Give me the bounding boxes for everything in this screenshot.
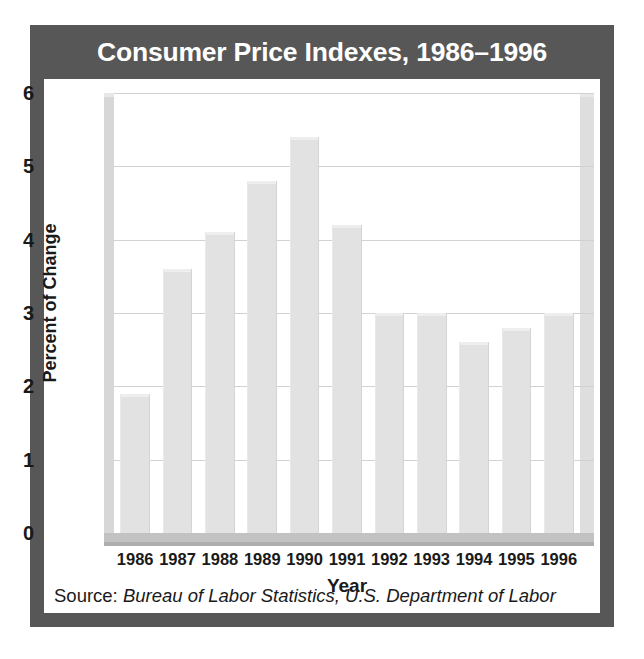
source-note: Source: Bureau of Labor Statistics, U.S.… bbox=[44, 585, 556, 607]
x-tick-label: 1991 bbox=[326, 550, 368, 569]
source-box: Source: Bureau of Labor Statistics, U.S.… bbox=[44, 578, 600, 613]
x-tick-label: 1994 bbox=[453, 550, 495, 569]
bar-top-face bbox=[503, 328, 531, 331]
bar bbox=[205, 232, 235, 533]
y-tick-label: 4 bbox=[4, 228, 34, 251]
y-tick-label: 0 bbox=[4, 522, 34, 545]
bar-top-face bbox=[376, 313, 404, 316]
plot-floor-front bbox=[104, 542, 594, 546]
bar bbox=[163, 269, 193, 533]
y-axis-label: Percent of Change bbox=[40, 83, 64, 523]
bar bbox=[459, 342, 489, 533]
x-tick-label: 1987 bbox=[156, 550, 198, 569]
bar-top-face bbox=[460, 342, 488, 345]
x-tick-label: 1988 bbox=[199, 550, 241, 569]
bar-top-face bbox=[206, 232, 234, 235]
bar bbox=[247, 181, 277, 533]
x-tick-label: 1992 bbox=[368, 550, 410, 569]
bar-top-face bbox=[545, 313, 573, 316]
x-tick-label: 1986 bbox=[114, 550, 156, 569]
bar bbox=[120, 394, 150, 533]
x-tick-label: 1995 bbox=[495, 550, 537, 569]
y-tick-label: 6 bbox=[4, 82, 34, 105]
bar bbox=[502, 328, 532, 533]
bar-series bbox=[114, 93, 580, 533]
plot-right-wall bbox=[580, 97, 594, 541]
bar-top-face bbox=[291, 137, 319, 140]
bar bbox=[332, 225, 362, 533]
bar-top-face bbox=[333, 225, 361, 228]
bar-top-face bbox=[248, 181, 276, 184]
chart-title: Consumer Price Indexes, 1986–1996 bbox=[97, 37, 547, 68]
y-tick-label: 3 bbox=[4, 302, 34, 325]
bar bbox=[417, 313, 447, 533]
x-tick-label: 1993 bbox=[411, 550, 453, 569]
bar bbox=[290, 137, 320, 533]
plot-area: 6543210 Percent of Change 19861987198819… bbox=[44, 83, 600, 580]
bar-top-face bbox=[121, 394, 149, 397]
source-citation: Bureau of Labor Statistics, U.S. Departm… bbox=[123, 585, 556, 606]
y-tick-label: 5 bbox=[4, 155, 34, 178]
source-prefix: Source: bbox=[54, 585, 123, 606]
x-tick-label: 1990 bbox=[283, 550, 325, 569]
x-tick-label: 1996 bbox=[538, 550, 580, 569]
chart-title-band: Consumer Price Indexes, 1986–1996 bbox=[30, 25, 614, 79]
chart-figure: Consumer Price Indexes, 1986–1996 654321… bbox=[0, 0, 644, 659]
bar bbox=[375, 313, 405, 533]
bar-top-face bbox=[418, 313, 446, 316]
y-tick-label: 1 bbox=[4, 448, 34, 471]
x-tick-label: 1989 bbox=[241, 550, 283, 569]
bar-top-face bbox=[164, 269, 192, 272]
bar bbox=[544, 313, 574, 533]
plot-left-wall bbox=[104, 97, 114, 541]
y-tick-label: 2 bbox=[4, 375, 34, 398]
x-axis-ticks: 1986198719881989199019911992199319941995… bbox=[114, 550, 580, 574]
